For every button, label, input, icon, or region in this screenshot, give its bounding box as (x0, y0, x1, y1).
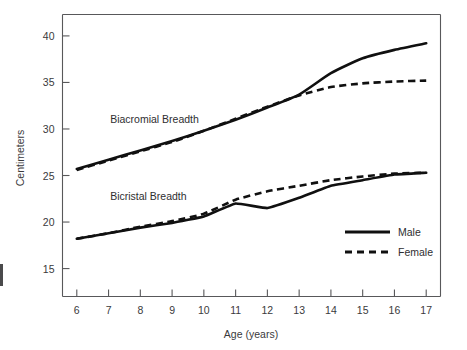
annotation-biacromial-breadth: Biacromial Breadth (110, 113, 199, 125)
x-tick-label: 9 (169, 304, 175, 316)
annotation-bicristal-breadth: Bicristal Breadth (110, 190, 187, 202)
x-axis-title: Age (years) (224, 328, 278, 340)
y-tick-label: 40 (43, 30, 55, 42)
legend-label-male: Male (398, 226, 421, 238)
x-tick-label: 11 (230, 304, 241, 316)
y-axis-title: Centimeters (14, 130, 26, 187)
growth-chart-figure: 152025303540 67891011121314151617 Biacro… (0, 0, 467, 350)
x-tick-label: 13 (293, 304, 305, 316)
x-tick-label: 12 (262, 304, 274, 316)
x-tick-label: 8 (137, 304, 143, 316)
y-tick-label: 35 (43, 76, 55, 88)
x-tick-label: 16 (389, 304, 401, 316)
y-tick-label: 25 (43, 170, 55, 182)
x-tick-label: 7 (106, 304, 112, 316)
legend-label-female: Female (398, 246, 433, 258)
y-tick-label: 15 (43, 263, 55, 275)
page-edge-artifact (0, 264, 3, 286)
y-tick-label: 20 (43, 216, 55, 228)
y-tick-label: 30 (43, 123, 55, 135)
x-tick-label: 17 (420, 304, 432, 316)
x-tick-label: 10 (198, 304, 210, 316)
x-tick-label: 15 (357, 304, 369, 316)
x-tick-label: 6 (74, 304, 80, 316)
x-tick-label: 14 (325, 304, 337, 316)
